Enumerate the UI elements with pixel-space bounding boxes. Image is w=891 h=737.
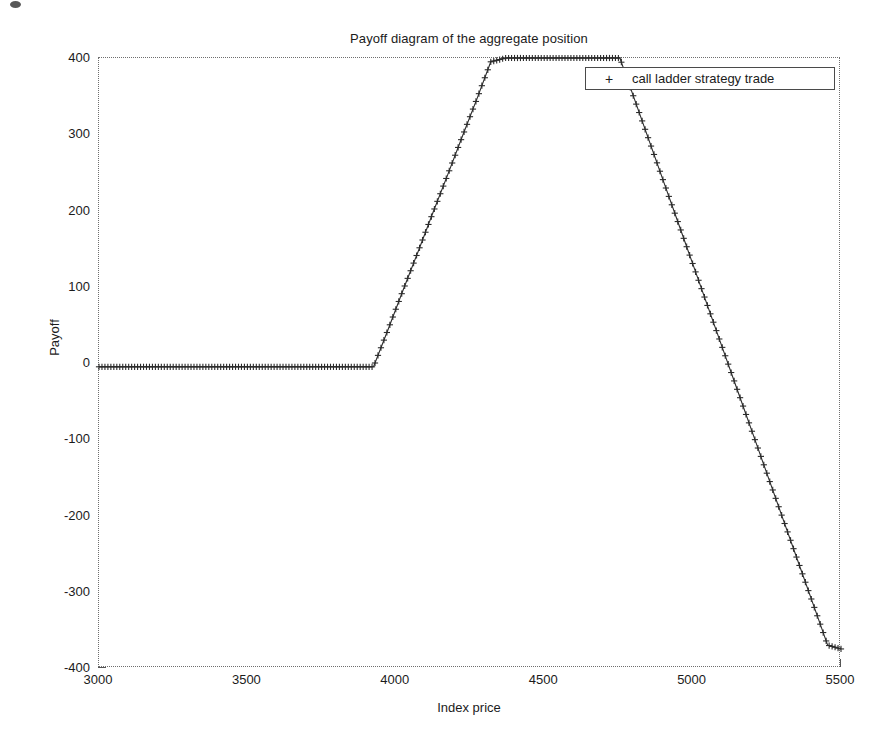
y-tick-label: -200 [64, 507, 90, 522]
x-axis-label: Index price [98, 700, 840, 715]
y-axis-label: Payoff [47, 278, 62, 398]
x-tick-label: 4000 [380, 672, 409, 687]
x-tick-label: 5500 [826, 672, 855, 687]
x-tick-label: 5000 [677, 672, 706, 687]
data-series-layer [99, 58, 841, 668]
y-tick-label: -100 [64, 431, 90, 446]
plot-area [98, 57, 840, 667]
legend-label: call ladder strategy trade [632, 71, 774, 86]
x-tick-label: 3500 [232, 672, 261, 687]
legend-box[interactable]: + call ladder strategy trade [585, 67, 835, 90]
series-line-call-ladder [99, 58, 841, 649]
scan-artifact-mark [10, 1, 21, 8]
series-markers-call-ladder [96, 55, 844, 652]
legend-marker-plus-icon: + [586, 72, 632, 86]
y-tick-label: 200 [68, 202, 90, 217]
chart-title: Payoff diagram of the aggregate position [98, 31, 840, 46]
y-tick-label: -300 [64, 583, 90, 598]
y-tick-label: 100 [68, 278, 90, 293]
y-tick-label: 400 [68, 50, 90, 65]
x-tick-label: 4500 [529, 672, 558, 687]
y-tick-label: 300 [68, 126, 90, 141]
payoff-chart-figure: Payoff diagram of the aggregate position… [0, 0, 891, 737]
x-tick-label: 3000 [84, 672, 113, 687]
y-tick-label: 0 [83, 355, 90, 370]
